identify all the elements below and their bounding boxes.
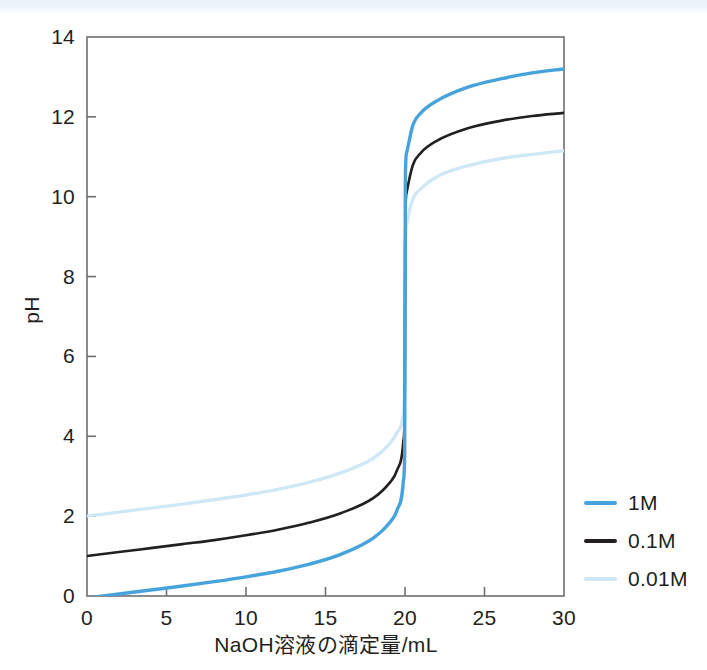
y-tick-label: 4 [21, 424, 75, 448]
legend-label-01m: 0.1M [628, 529, 676, 553]
y-tick-label: 8 [21, 265, 75, 289]
titration-curve-chart: pH NaOH溶液の滴定量/mL 1M 0.1M 0.01M 024681012… [0, 0, 707, 670]
x-tick-label: 20 [393, 606, 417, 630]
legend-swatch-1m [584, 501, 617, 505]
series-line [87, 113, 564, 556]
series-line [87, 151, 564, 516]
x-tick-label: 10 [234, 606, 258, 630]
x-tick-label: 30 [552, 606, 576, 630]
legend-label-1m: 1M [628, 491, 658, 515]
y-axis-title: pH [20, 296, 44, 324]
legend-swatch-001m [584, 577, 617, 581]
legend-item: 0.1M [584, 522, 704, 560]
x-tick-label: 15 [314, 606, 338, 630]
y-tick-label: 0 [21, 584, 75, 608]
x-tick-label: 25 [473, 606, 497, 630]
y-tick-label: 2 [21, 504, 75, 528]
x-tick-label: 5 [161, 606, 173, 630]
legend-item: 0.01M [584, 560, 704, 598]
y-tick-label: 12 [21, 105, 75, 129]
x-tick-label: 0 [81, 606, 93, 630]
x-axis-title: NaOH溶液の滴定量/mL [87, 628, 565, 658]
plot-frame [87, 37, 564, 596]
y-tick-label: 10 [21, 185, 75, 209]
legend-label-001m: 0.01M [628, 567, 688, 591]
legend-item: 1M [584, 484, 704, 522]
legend-swatch-01m [584, 539, 617, 543]
chart-legend: 1M 0.1M 0.01M [584, 484, 704, 598]
y-tick-label: 14 [21, 25, 75, 49]
y-tick-label: 6 [21, 344, 75, 368]
